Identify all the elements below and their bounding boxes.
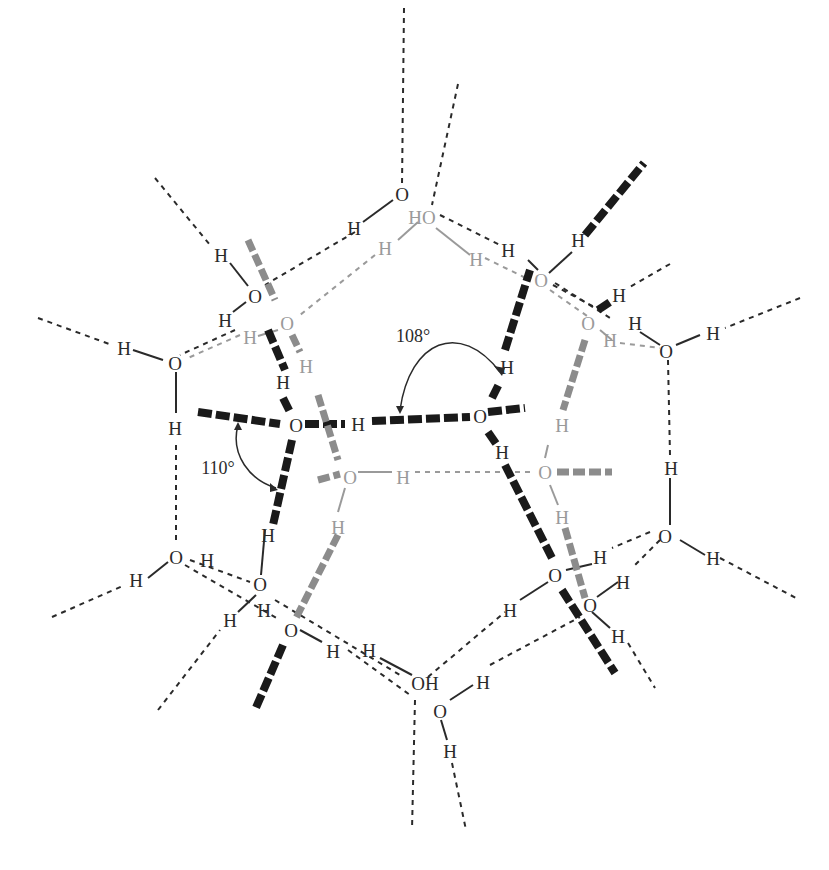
hydrogen-atom: H <box>706 548 720 569</box>
hydrogen-atom: H <box>706 323 720 344</box>
angle-arc-110 <box>236 425 276 488</box>
oxygen-atom: O <box>538 462 552 483</box>
hydrogen-atom: H <box>501 240 515 261</box>
hydrogen-atom: H <box>362 640 376 661</box>
hydrogen-atom: H <box>331 517 345 538</box>
atoms-light: HO H H O O H H O H H O H H O H <box>243 207 617 538</box>
ho-group: HO <box>408 207 435 228</box>
oxygen-atom: O <box>168 353 182 374</box>
oxygen-atom: O <box>583 595 597 616</box>
oh-group: OH <box>411 673 439 694</box>
arrowhead-icon <box>234 422 242 430</box>
hydrogen-atom: H <box>469 249 483 270</box>
oxygen-atom: O <box>581 313 595 334</box>
hydrogen-atom: H <box>396 467 410 488</box>
oxygen-atom: O <box>534 270 548 291</box>
hydrogen-atom: H <box>571 230 585 251</box>
hydrogen-atom: H <box>129 570 143 591</box>
oxygen-atom: O <box>659 341 673 362</box>
hydrogen-atom: H <box>351 414 365 435</box>
oxygen-atom: O <box>433 701 447 722</box>
hydrogen-atom: H <box>200 550 214 571</box>
oxygen-atom: O <box>548 565 562 586</box>
hydrogen-atom: H <box>214 245 228 266</box>
arrowhead-icon <box>396 406 404 414</box>
hydrogen-atom: H <box>628 313 642 334</box>
hydrogen-atom: H <box>495 442 509 463</box>
oxygen-atom: O <box>169 547 183 568</box>
oxygen-atom: O <box>284 620 298 641</box>
hydrogen-atom: H <box>603 330 617 351</box>
hydrogen-atom: H <box>616 572 630 593</box>
hydrogen-atom: H <box>243 327 257 348</box>
angle-labels: 108° 110° <box>201 326 430 478</box>
hydrogen-atom: H <box>612 285 626 306</box>
hydrogen-atom: H <box>218 310 232 331</box>
water-hydrogen-bond-diagram: O H H O H H O H H O H O H H H H H H O H … <box>0 0 829 870</box>
hydrogen-atom: H <box>168 418 182 439</box>
hydrogen-atom: H <box>378 238 392 259</box>
arrowhead-icon <box>270 483 278 492</box>
oxygen-atom: O <box>658 526 672 547</box>
hydrogen-atom: H <box>476 672 490 693</box>
hydrogen-atom: H <box>555 415 569 436</box>
hydrogen-atom: H <box>299 356 313 377</box>
oxygen-atom: O <box>473 406 487 427</box>
oxygen-atom: O <box>253 574 267 595</box>
hydrogen-atom: H <box>500 357 514 378</box>
angle-label-108: 108° <box>396 326 430 346</box>
hydrogen-atom: H <box>347 218 361 239</box>
oxygen-atom: O <box>280 313 294 334</box>
oxygen-atom: O <box>289 415 303 436</box>
hydrogen-atom: H <box>276 372 290 393</box>
oxygen-atom: O <box>395 184 409 205</box>
hydrogen-atom: H <box>664 458 678 479</box>
oxygen-atom: O <box>248 286 262 307</box>
hydrogen-atom: H <box>326 641 340 662</box>
hydrogen-atom: H <box>611 626 625 647</box>
angle-label-110: 110° <box>201 458 235 478</box>
hydrogen-atom: H <box>257 600 271 621</box>
hydrogen-atom: H <box>261 525 275 546</box>
hydrogen-atom: H <box>223 610 237 631</box>
hydrogen-atom: H <box>593 547 607 568</box>
hydrogen-atom: H <box>443 741 457 762</box>
angle-arc-108 <box>400 343 500 410</box>
hydrogen-atom: H <box>503 600 517 621</box>
hydrogen-atom: H <box>117 338 131 359</box>
hydrogen-atom: H <box>555 507 569 528</box>
oxygen-atom: O <box>343 467 357 488</box>
